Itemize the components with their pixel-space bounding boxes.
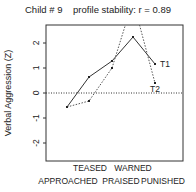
data-points	[66, 36, 156, 108]
x-label-approached: APPROACHED	[38, 176, 98, 186]
x-label-praised: PRAISED	[102, 176, 139, 186]
series-label-t1: T1	[160, 59, 170, 69]
data-point	[132, 36, 134, 38]
data-point	[88, 100, 90, 102]
series-label-t2: T2	[150, 84, 160, 94]
series-t1-line	[67, 37, 155, 107]
y-tick-label: 1	[31, 65, 41, 70]
y-tick-labels: -2-1012	[31, 40, 41, 146]
x-label-punished: PUNISHED	[141, 176, 185, 186]
y-tick-label: 2	[31, 40, 41, 45]
y-tick-label: 0	[31, 90, 41, 95]
series-t2-line	[67, 1, 155, 108]
data-point	[88, 76, 90, 78]
data-point	[111, 67, 113, 69]
x-label-teased: TEASED	[73, 163, 107, 173]
data-point	[154, 63, 156, 65]
y-tick-label: -2	[31, 139, 41, 147]
data-point	[111, 60, 113, 62]
y-tick-label: -1	[31, 114, 41, 122]
data-point	[66, 106, 68, 108]
x-label-warned: WARNED	[114, 163, 151, 173]
